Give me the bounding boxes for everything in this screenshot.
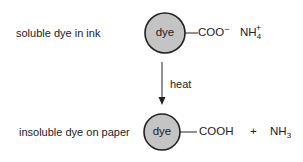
heat-label: heat [170,79,191,90]
heat-arrow-head [159,97,166,105]
carboxylate-group: COO− [198,27,229,39]
soluble-dye-label: soluble dye in ink [16,28,100,39]
ammonia-base: NH [270,125,287,137]
carboxylic-acid-group: COOH [199,126,234,138]
carboxylate-text: COO [198,26,224,38]
ammonia-molecule: NH3 [270,126,291,138]
ammonium-base: NH [240,26,257,38]
positive-charge: + [256,23,261,33]
dye-label-bottom: dye [153,126,172,138]
ammonium-ion: NH4+ [240,27,261,39]
negative-charge: − [224,24,229,34]
dye-label-top: dye [156,27,175,39]
ammonium-subscript: 4 [257,32,261,41]
ammonia-subscript: 3 [287,131,291,140]
plus-sign: + [250,126,257,138]
insoluble-dye-label: insoluble dye on paper [19,127,130,138]
